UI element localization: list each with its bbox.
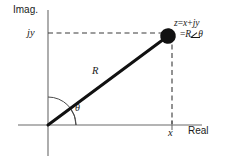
angle-symbol-icon: θ — [191, 29, 203, 40]
jy-symbol: jy — [193, 18, 200, 28]
z-annotation-line2: =Rθ — [174, 29, 203, 40]
phasor-vector-R — [48, 36, 168, 125]
phasor-diagram: Imag. jy x Real R θ z=x+jy =Rθ — [0, 0, 226, 166]
vector-magnitude-label: R — [92, 65, 98, 76]
z-annotation: z=x+jy =Rθ — [174, 19, 203, 40]
imaginary-axis-label: Imag. — [13, 5, 38, 16]
z-annotation-line1: z=x+jy — [174, 19, 203, 29]
real-axis-label: Real — [188, 126, 209, 137]
x-tick-label: x — [168, 127, 173, 138]
y-tick-label-jy: jy — [27, 27, 35, 38]
vector-angle-label: θ — [75, 103, 80, 114]
